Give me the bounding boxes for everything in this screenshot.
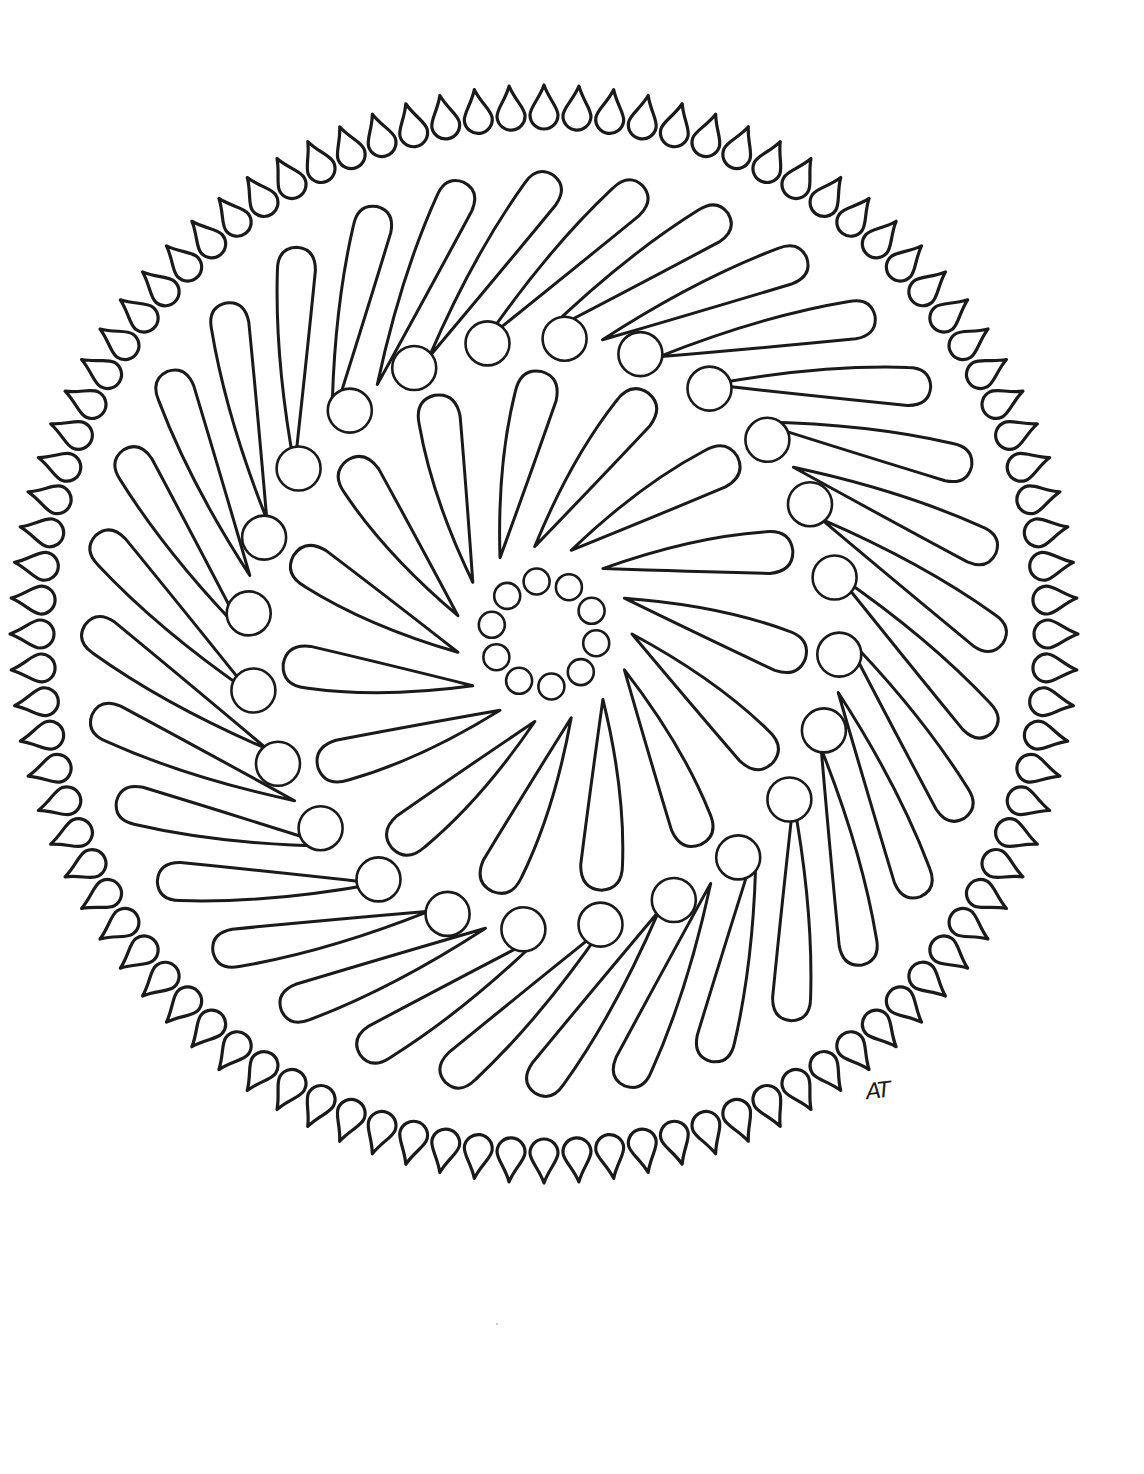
middle-circle: [802, 708, 846, 752]
outer-paisley: [773, 801, 811, 1021]
outer-drop: [530, 1139, 558, 1183]
outer-drop: [10, 584, 56, 615]
outer-drop: [426, 1127, 462, 1176]
middle-circle: [277, 447, 321, 491]
inner-circle: [583, 630, 609, 656]
inner-paisley: [283, 646, 473, 693]
outer-drop: [594, 88, 628, 135]
mandala-drawing: [0, 0, 1144, 1474]
outer-drop: [626, 1127, 662, 1176]
middle-circle: [357, 857, 401, 901]
outer-paisley: [711, 367, 931, 405]
inner-paisley: [624, 598, 806, 672]
outer-drop: [17, 513, 66, 549]
outer-drop: [13, 686, 60, 720]
outer-drop: [460, 88, 494, 135]
outer-paisley: [157, 863, 377, 901]
outer-drop: [10, 620, 54, 648]
middle-circle: [543, 317, 587, 361]
paper-speck: [496, 1323, 498, 1325]
inner-paisley: [480, 718, 571, 894]
middle-circle: [688, 367, 732, 411]
middle-circle: [652, 878, 696, 922]
middle-circle: [788, 482, 832, 526]
inner-paisley: [581, 699, 623, 890]
inner-circle: [494, 583, 520, 609]
inner-circle: [479, 612, 505, 638]
outer-drop: [495, 85, 526, 131]
middle-circle: [745, 418, 789, 462]
inner-circle: [579, 598, 605, 624]
inner-circle: [538, 674, 564, 700]
outer-drop: [530, 85, 558, 129]
outer-drop: [13, 548, 60, 582]
outer-drop: [1028, 686, 1075, 720]
middle-circle: [242, 516, 286, 560]
middle-circle: [501, 907, 545, 951]
outer-drop: [392, 100, 430, 150]
artist-signature: AT: [865, 1077, 890, 1104]
outer-drop: [1034, 620, 1078, 648]
middle-circle: [767, 778, 811, 822]
middle-circle: [466, 321, 510, 365]
middle-circle: [426, 892, 470, 936]
outer-drop: [460, 1133, 494, 1180]
middle-circle: [813, 556, 857, 600]
outer-drop: [1022, 719, 1071, 755]
middle-circle: [328, 389, 372, 433]
outer-drop: [1022, 513, 1071, 549]
outer-drop: [657, 100, 695, 150]
outer-drop: [392, 1118, 430, 1168]
middle-circle: [392, 346, 436, 390]
outer-drop: [25, 751, 75, 789]
outer-drop: [1014, 478, 1064, 516]
middle-circle: [256, 742, 300, 786]
outer-drop: [10, 653, 56, 684]
outer-drop: [562, 1137, 593, 1183]
outer-drop: [1014, 751, 1064, 789]
middle-circle: [231, 669, 275, 713]
inner-paisley: [290, 545, 458, 652]
middle-circle: [299, 806, 343, 850]
middle-circle: [716, 835, 760, 879]
outer-drop: [495, 1137, 526, 1183]
mandala-rings: [10, 85, 1078, 1183]
outer-drop: [562, 85, 593, 131]
outer-drop: [657, 1118, 695, 1168]
outer-drop: [25, 478, 75, 516]
inner-circle: [506, 668, 532, 694]
outer-paisley: [277, 247, 315, 467]
outer-drop: [594, 1133, 628, 1180]
outer-drop: [426, 93, 462, 142]
outer-drop: [626, 93, 662, 142]
inner-circle: [524, 569, 550, 595]
middle-circle: [579, 903, 623, 947]
outer-drop: [1032, 584, 1078, 615]
outer-drop: [1032, 653, 1078, 684]
middle-circle: [618, 332, 662, 376]
coloring-page: AT: [0, 0, 1144, 1474]
inner-circle: [556, 574, 582, 600]
inner-paisley: [603, 532, 793, 574]
inner-circle: [483, 644, 509, 670]
outer-drop: [17, 719, 66, 755]
middle-circle: [227, 591, 271, 635]
inner-circle: [568, 659, 594, 685]
middle-circle: [817, 633, 861, 677]
outer-drop: [1028, 548, 1075, 582]
